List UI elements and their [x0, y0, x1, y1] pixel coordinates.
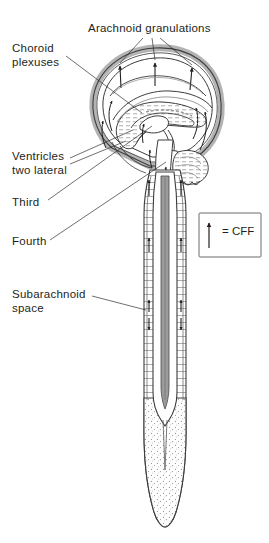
legend-label: = CFF	[222, 225, 254, 237]
label-arachnoid-granulations: Arachnoid granulations	[88, 22, 211, 36]
label-subarachnoid-space: Subarachnoid space	[12, 288, 86, 315]
label-choroid-plexuses: Choroid plexuses	[12, 42, 59, 69]
label-third-ventricle: Third	[12, 196, 39, 210]
spinal-column-group	[144, 170, 186, 527]
label-ventricles-two-lateral: Ventricles two lateral	[12, 150, 67, 177]
csf-circulation-diagram	[0, 0, 269, 543]
leader-subarachnoid-space	[92, 296, 146, 310]
label-fourth-ventricle: Fourth	[12, 235, 47, 249]
